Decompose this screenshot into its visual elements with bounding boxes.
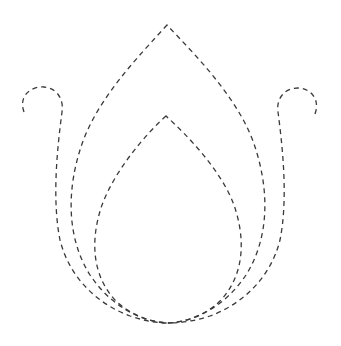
lotus-flame-drawing [0, 0, 341, 346]
drawing-canvas: Lotus / flame outline made of dashed lin… [0, 0, 341, 346]
left-curl-tendril [23, 87, 168, 323]
inner-flame-petal [95, 116, 241, 323]
outer-flame-petal [71, 25, 265, 323]
right-curl-tendril [168, 88, 317, 323]
